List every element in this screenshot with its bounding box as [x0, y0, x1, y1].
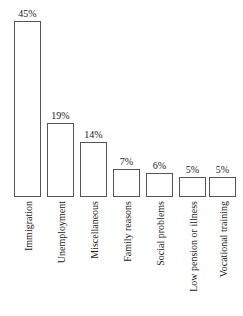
bar-category-text: Unemployment	[55, 201, 66, 263]
bar-value-label: 6%	[146, 160, 173, 171]
bar-group: 19% Unemployment	[47, 123, 74, 197]
bar-category-text: Family reasons	[121, 201, 132, 262]
bar-value-label: 45%	[14, 8, 41, 19]
bar-value-label: 14%	[80, 129, 107, 140]
bar-group: 45% Immigration	[14, 21, 41, 197]
bar-group: 7% Family reasons	[113, 169, 140, 197]
bar-value-label: 19%	[47, 110, 74, 121]
plot-area: 45% Immigration 19% Unemployment 14% Mis…	[0, 0, 243, 316]
bar-chart-figure: 45% Immigration 19% Unemployment 14% Mis…	[0, 0, 243, 316]
bar-rect[interactable]	[80, 142, 107, 197]
bar-group: 5% Low pension or illness	[179, 177, 206, 197]
bar-category-text: Vocational training	[217, 201, 228, 277]
bar-category-text: Miscellaneous	[88, 201, 99, 259]
bar-group: 14% Miscellaneous	[80, 142, 107, 197]
bar-group: 6% Social problems	[146, 173, 173, 197]
bar-category-text: Social problems	[154, 201, 165, 266]
bar-rect[interactable]	[146, 173, 173, 197]
bar-group: 5% Vocational training	[209, 177, 236, 197]
bar-rect[interactable]	[14, 21, 41, 197]
bar-value-label: 5%	[209, 164, 236, 175]
bar-rect[interactable]	[47, 123, 74, 197]
bar-rect[interactable]	[179, 177, 206, 197]
bar-rect[interactable]	[113, 169, 140, 197]
bar-category-text: Immigration	[22, 201, 33, 251]
bar-value-label: 7%	[113, 156, 140, 167]
bar-category-text: Low pension or illness	[187, 201, 198, 292]
bar-rect[interactable]	[209, 177, 236, 197]
bar-value-label: 5%	[179, 164, 206, 175]
